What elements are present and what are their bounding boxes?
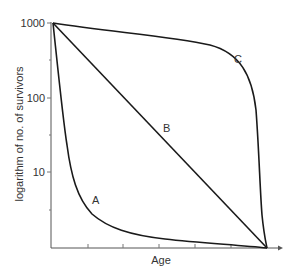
curve-b-label: B	[163, 122, 170, 134]
curve-c-label: C	[234, 53, 242, 65]
x-axis-title: Age	[151, 254, 171, 266]
x-ticks	[88, 244, 231, 248]
y-ticks	[47, 23, 51, 210]
y-tick-1000: 1000	[21, 17, 45, 29]
curve-a-label: A	[92, 194, 100, 206]
y-axis-title: logarithm of no. of survivors	[13, 66, 25, 202]
y-tick-10: 10	[33, 166, 45, 178]
y-tick-100: 100	[27, 92, 45, 104]
survivorship-chart: 1000 100 10 logarithm of no. of survivor…	[0, 0, 292, 277]
x-axis-arrow-icon	[278, 246, 283, 251]
